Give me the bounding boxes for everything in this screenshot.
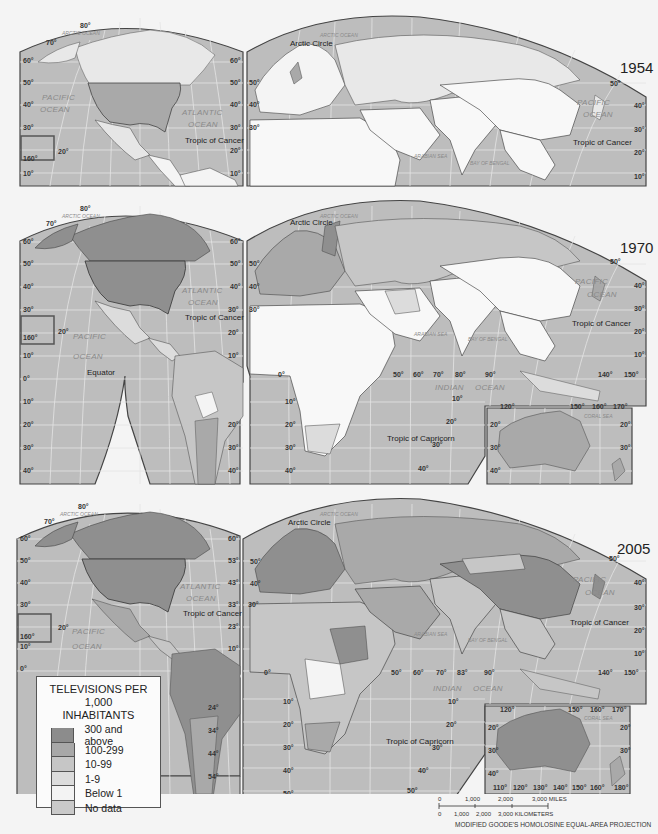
svg-text:30°: 30° [228,306,239,313]
central-africa [305,659,345,699]
svg-text:10°: 10° [23,352,34,359]
svg-text:30°: 30° [634,126,645,133]
svg-text:40°: 40° [283,767,294,774]
svg-text:170°: 170° [612,706,627,713]
svg-text:150°: 150° [572,784,587,791]
svg-text:60°: 60° [230,238,241,245]
svg-text:150°: 150° [570,403,585,410]
svg-text:50°: 50° [23,79,34,86]
svg-text:30°: 30° [620,747,631,754]
pacific-ocean-label: OCEAN [73,352,103,361]
svg-text:60°: 60° [230,57,241,64]
svg-text:24°: 24° [208,704,219,711]
pacific-ocean-label-east: OCEAN [587,290,617,299]
legend-swatch [51,801,75,816]
svg-text:50°: 50° [230,79,241,86]
svg-text:40°: 40° [488,770,499,777]
svg-text:2,000: 2,000 [476,811,492,817]
svg-text:33°: 33° [228,601,239,608]
arabian-sea-label: ARABIAN SEA [413,153,448,159]
year-label-1954: 1954 [620,59,653,76]
svg-text:30°: 30° [490,444,501,451]
year-label-2005: 2005 [617,540,650,557]
svg-text:80°: 80° [80,22,91,29]
year-label-1970: 1970 [620,239,653,256]
tropic-cancer-label-east: Tropic of Cancer [572,319,631,328]
svg-text:120°: 120° [500,403,515,410]
svg-text:160°: 160° [23,334,38,341]
tropic-cancer-label-east: Tropic of Cancer [570,618,629,627]
pacific-ocean-label: OCEAN [40,105,70,114]
svg-text:30°: 30° [248,601,259,608]
svg-text:20°: 20° [228,329,239,336]
svg-text:90°: 90° [484,669,495,676]
svg-text:83°: 83° [457,669,468,676]
argentina [195,418,218,484]
svg-text:150°: 150° [568,706,583,713]
svg-text:40°: 40° [418,767,429,774]
svg-text:23°: 23° [228,623,239,630]
pacific-label: PACIFIC [72,627,105,636]
svg-text:20°: 20° [228,421,239,428]
arctic-ocean-label: ARCTIC OCEAN [61,213,100,219]
atlantic-label: ATLANTIC [181,108,222,117]
svg-text:70°: 70° [46,220,57,227]
svg-text:30°: 30° [23,444,34,451]
coral-sea-label: CORAL SEA [584,715,613,721]
svg-text:150°: 150° [624,669,639,676]
arctic-ocean-label-east: ARCTIC OCEAN [319,511,358,517]
svg-text:160°: 160° [20,633,35,640]
svg-text:1,000: 1,000 [465,796,481,802]
svg-text:170°: 170° [613,403,628,410]
svg-text:10°: 10° [228,352,239,359]
svg-text:150°: 150° [624,371,639,378]
pacific-ocean-label-east: OCEAN [585,588,615,597]
legend-item-300-above: 300 and above [45,728,152,743]
legend-swatch [51,743,75,758]
svg-text:60°: 60° [20,535,31,542]
svg-text:10°: 10° [634,650,645,657]
svg-text:40°: 40° [249,101,260,108]
svg-text:0: 0 [438,811,442,817]
svg-text:20°: 20° [490,421,501,428]
svg-text:10°: 10° [448,698,459,705]
svg-text:30°: 30° [634,604,645,611]
svg-text:80°: 80° [80,205,91,212]
svg-text:120°: 120° [500,706,515,713]
svg-text:60°: 60° [228,535,239,542]
arctic-circle-label: Arctic Circle [288,518,331,527]
svg-text:120°: 120° [513,784,528,791]
svg-text:40°: 40° [634,282,645,289]
svg-text:30°: 30° [283,744,294,751]
svg-text:20°: 20° [634,328,645,335]
pacific-label-east: PACIFIC [577,98,610,107]
svg-text:160°: 160° [592,403,607,410]
svg-text:20°: 20° [230,147,241,154]
svg-text:40°: 40° [418,465,429,472]
svg-text:20°: 20° [283,721,294,728]
svg-text:40°: 40° [230,283,241,290]
svg-text:80°: 80° [455,371,466,378]
projection-label: MODIFIED GOODE'S HOMOLOSINE EQUAL-AREA P… [455,821,651,828]
tropic-cancer-label: Tropic of Cancer [183,609,242,618]
svg-text:40°: 40° [249,283,260,290]
svg-text:50°: 50° [23,260,34,267]
svg-text:30°: 30° [23,124,34,131]
svg-text:40°: 40° [230,101,241,108]
svg-text:10°: 10° [23,398,34,405]
svg-text:50°: 50° [393,371,404,378]
svg-text:40°: 40° [23,467,34,474]
svg-text:40°: 40° [23,283,34,290]
pacific-ocean-label-east: OCEAN [583,110,613,119]
svg-text:130°: 130° [533,784,548,791]
svg-text:53°: 53° [228,557,239,564]
svg-text:50°: 50° [407,787,418,794]
svg-text:50°: 50° [249,79,260,86]
svg-text:30°: 30° [249,306,260,313]
svg-text:0°: 0° [20,665,27,672]
coral-sea-label: CORAL SEA [584,413,613,419]
svg-text:10°: 10° [283,698,294,705]
svg-text:20°: 20° [488,724,499,731]
svg-text:90°: 90° [485,371,496,378]
arabian-sea-label: ARABIAN SEA [413,331,448,337]
